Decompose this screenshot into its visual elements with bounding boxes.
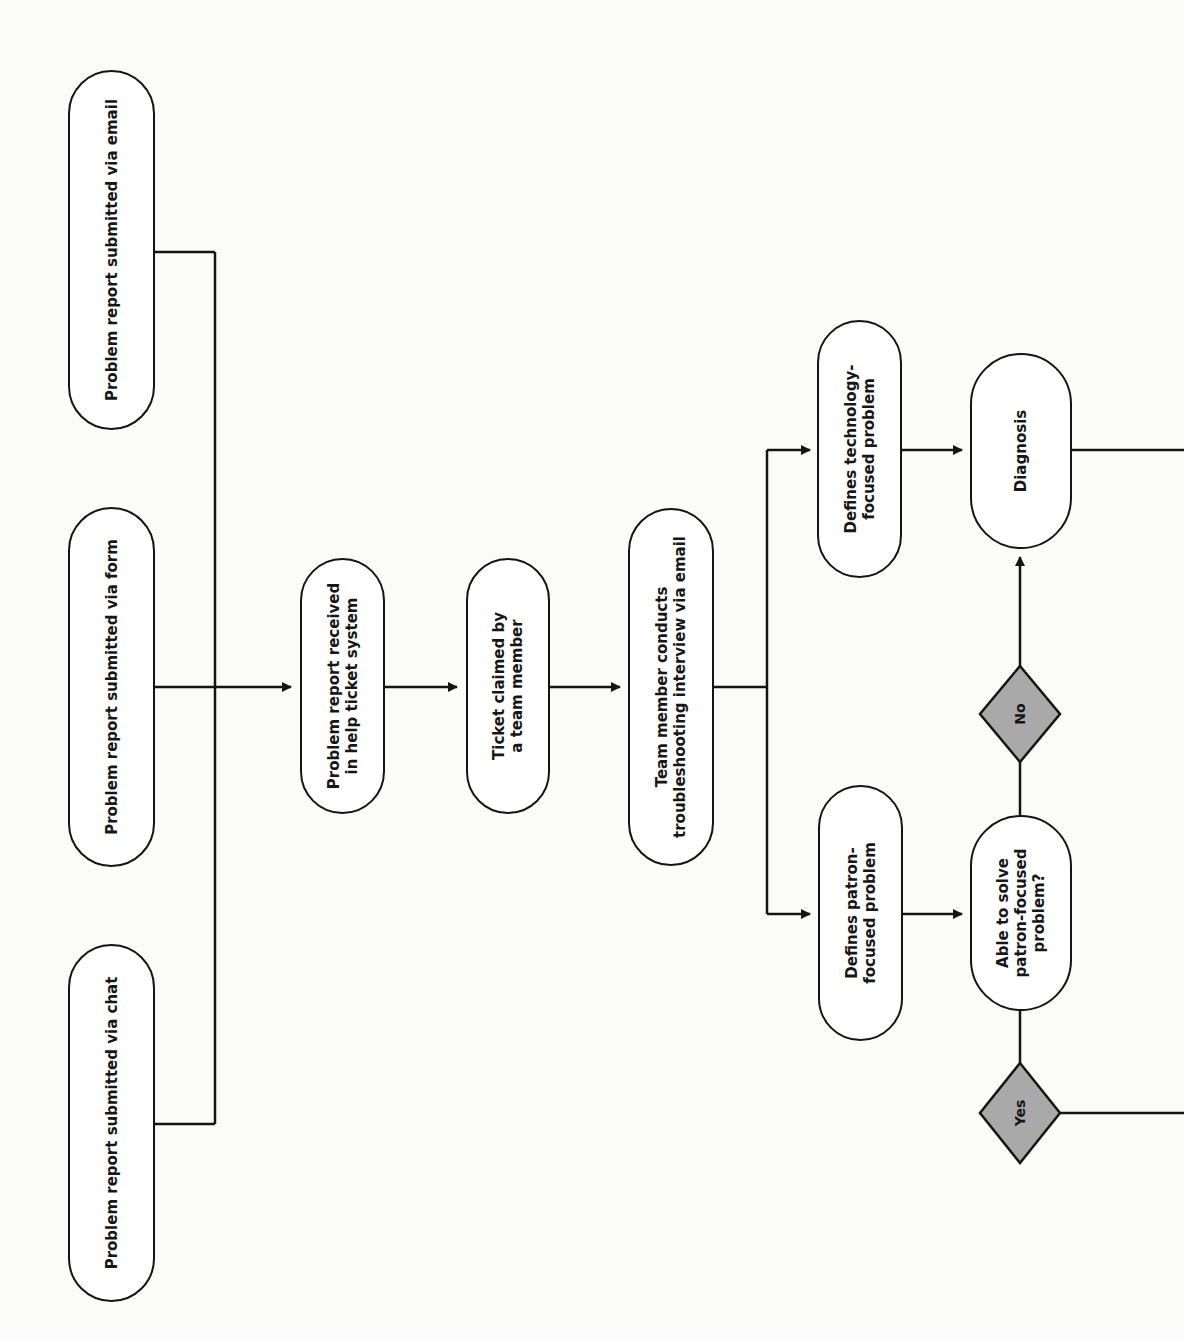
node-submitted-via-form: Problem report submitted via form xyxy=(68,507,155,867)
node-able-to-solve-question: Able to solve patron-focused problem? xyxy=(970,815,1072,1011)
node-label: Able to solve patron-focused problem? xyxy=(994,849,1048,978)
decision-yes-label: Yes xyxy=(1012,1100,1028,1127)
node-ticket-claimed: Ticket claimed by a team member xyxy=(466,558,550,814)
node-diagnosis: Diagnosis xyxy=(970,353,1072,549)
node-defines-technology-problem: Defines technology- focused problem xyxy=(817,320,902,578)
node-label: Problem report submitted via form xyxy=(103,539,121,835)
node-label: Defines technology- focused problem xyxy=(842,365,878,534)
node-label: Team member conducts troubleshooting int… xyxy=(653,536,689,838)
node-label: Problem report submitted via chat xyxy=(103,977,121,1270)
node-submitted-via-email: Problem report submitted via email xyxy=(68,70,155,430)
node-label: Diagnosis xyxy=(1012,410,1030,492)
node-received-in-ticket-system: Problem report received in help ticket s… xyxy=(300,558,385,814)
node-troubleshooting-interview: Team member conducts troubleshooting int… xyxy=(628,508,714,866)
decision-no-label: No xyxy=(1012,703,1028,724)
node-label: Problem report received in help ticket s… xyxy=(325,583,361,789)
node-label: Defines patron- focused problem xyxy=(843,842,879,984)
node-submitted-via-chat: Problem report submitted via chat xyxy=(68,944,155,1302)
node-label: Ticket claimed by a team member xyxy=(490,612,526,760)
node-defines-patron-problem: Defines patron- focused problem xyxy=(818,785,903,1041)
node-label: Problem report submitted via email xyxy=(103,99,121,401)
flowchart-connectors xyxy=(0,0,1184,1341)
